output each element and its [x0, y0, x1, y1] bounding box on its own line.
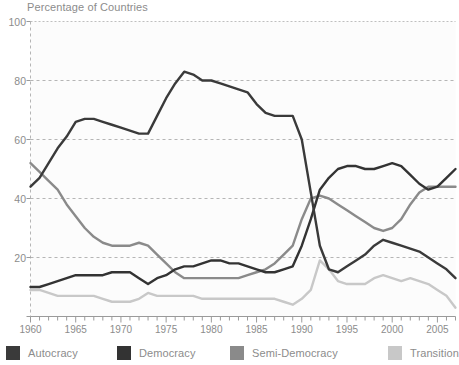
- y-axis-tick-label: 20: [0, 253, 26, 263]
- legend-entry-transition[interactable]: Transition: [388, 342, 459, 364]
- legend-swatch-icon: [388, 346, 402, 360]
- x-axis-tick-label: 1990: [285, 325, 319, 335]
- y-axis-tick-label: 40: [0, 194, 26, 204]
- x-axis-tick-label: 1970: [104, 325, 138, 335]
- y-axis-tick-label: 100: [0, 17, 26, 27]
- x-axis-tick-label: 2005: [420, 325, 454, 335]
- legend-label: Transition: [410, 347, 459, 359]
- legend-entry-democracy[interactable]: Democracy: [117, 342, 196, 364]
- legend-label: Autocracy: [28, 347, 78, 359]
- legend-entry-semi-democracy[interactable]: Semi-Democracy: [230, 342, 338, 364]
- legend-swatch-icon: [6, 346, 20, 360]
- legend-entry-autocracy[interactable]: Autocracy: [6, 342, 78, 364]
- legend-swatch-icon: [117, 346, 131, 360]
- chart-legend: AutocracyDemocracySemi-DemocracyTransiti…: [0, 342, 458, 365]
- x-axis-tick-label: 1960: [14, 325, 48, 335]
- x-axis-tick-label: 1975: [149, 325, 183, 335]
- y-axis-tick-label: 80: [0, 76, 26, 86]
- plot-area: 20406080100 1960196519701975198019851990…: [0, 0, 458, 340]
- x-axis-tick-label: 1995: [330, 325, 364, 335]
- y-axis-tick-label: 60: [0, 135, 26, 145]
- legend-label: Semi-Democracy: [252, 347, 338, 359]
- legend-label: Democracy: [139, 347, 196, 359]
- x-axis-tick-label: 1965: [59, 325, 93, 335]
- plot-background: [31, 22, 456, 317]
- x-axis-tick-label: 2000: [375, 325, 409, 335]
- legend-swatch-icon: [230, 346, 244, 360]
- chart-plot-svg: [0, 0, 458, 340]
- x-axis-tick-label: 1985: [240, 325, 274, 335]
- x-axis-tick-label: 1980: [194, 325, 228, 335]
